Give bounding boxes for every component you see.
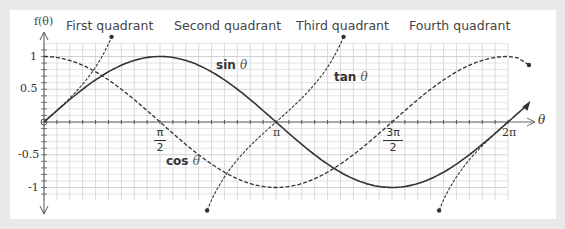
trig-plot — [0, 0, 565, 229]
x-tick-pi-over-2-denominator: 2 — [157, 141, 164, 154]
x-tick-3pi-over-2: 3π 2 — [383, 127, 403, 154]
x-tick-pi-over-2: π 2 — [154, 127, 166, 154]
tan-name: tan — [334, 70, 356, 84]
cos-name: cos — [166, 154, 189, 168]
x-tick-pi: π — [273, 126, 280, 139]
x-tick-3pi-over-2-denominator: 2 — [390, 141, 397, 154]
cos-theta: θ — [193, 154, 200, 168]
third-quadrant-label: Third quadrant — [296, 18, 389, 33]
sin-theta: θ — [240, 58, 247, 72]
tan-theta: θ — [361, 70, 368, 84]
y-axis-label: f(θ) — [34, 15, 53, 28]
y-tick-minus-1: -1 — [28, 181, 39, 194]
second-quadrant-label: Second quadrant — [174, 18, 281, 33]
sin-curve-label: sin θ — [216, 58, 247, 72]
sin-name: sin — [216, 58, 236, 72]
cos-curve-label: cos θ — [166, 154, 200, 168]
x-tick-2pi: 2π — [502, 126, 516, 139]
fourth-quadrant-label: Fourth quadrant — [409, 18, 510, 33]
first-quadrant-label: First quadrant — [66, 18, 153, 33]
x-tick-pi-over-2-numerator: π — [157, 126, 164, 139]
y-tick-minus-0.5: -0.5 — [18, 148, 39, 161]
x-axis-label: θ — [538, 113, 545, 127]
y-tick-1: 1 — [30, 50, 37, 63]
tan-curve-label: tan θ — [334, 70, 368, 84]
curves — [44, 35, 531, 213]
x-tick-3pi-over-2-numerator: 3π — [386, 126, 400, 139]
y-tick-0.5: 0.5 — [20, 82, 38, 95]
